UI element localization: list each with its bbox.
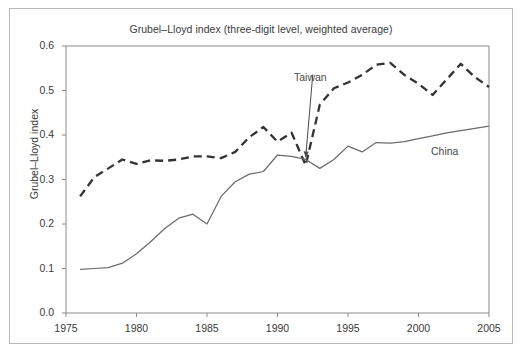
y-tick-label: 0.1 [24, 262, 54, 274]
data-series-group [80, 63, 489, 269]
x-tick-label: 1990 [255, 322, 301, 334]
y-axis-label: Grubel–Lloyd index [28, 84, 40, 224]
plot-area [0, 0, 522, 353]
series-line-china [80, 126, 489, 269]
series-line-taiwan [80, 63, 489, 197]
x-tick-label: 1995 [325, 322, 371, 334]
series-label-taiwan: Taiwan [294, 71, 327, 83]
axes [66, 46, 489, 313]
x-tick-label: 1975 [43, 322, 89, 334]
y-tick-label: 0.6 [24, 39, 54, 51]
x-tick-label: 1985 [184, 322, 230, 334]
taiwan-leader-line [306, 74, 313, 157]
x-tick-label: 2000 [396, 322, 442, 334]
x-tick-label: 2005 [466, 322, 512, 334]
y-tick-marks [62, 46, 66, 313]
chart-figure: Grubel–Lloyd index (three-digit level, w… [0, 0, 522, 353]
x-tick-label: 1980 [114, 322, 160, 334]
y-tick-label: 0.0 [24, 306, 54, 318]
series-label-china: China [431, 145, 458, 157]
x-tick-marks [66, 313, 489, 317]
